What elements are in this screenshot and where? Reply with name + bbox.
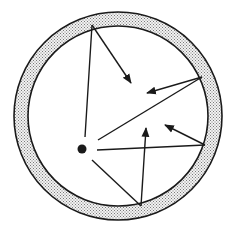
reflected-ray-arrow-icon <box>147 77 202 93</box>
point-source <box>78 145 87 154</box>
ray-3 <box>97 125 205 150</box>
incident-ray <box>92 160 141 206</box>
reflected-ray-arrow-icon <box>165 125 205 145</box>
ray-2 <box>98 77 202 140</box>
reflected-ray-arrow-icon <box>141 128 146 206</box>
incident-ray <box>97 145 205 150</box>
ray-4 <box>92 128 146 206</box>
ray-1 <box>85 25 131 137</box>
incident-ray <box>98 77 202 140</box>
reflected-ray-arrow-icon <box>92 25 131 83</box>
wall-inner-edge <box>28 26 208 206</box>
cavity-wall <box>14 12 222 220</box>
source-dot-icon <box>78 145 87 154</box>
incident-ray <box>85 25 92 137</box>
wall-shading <box>14 12 222 220</box>
cavity-reflection-diagram <box>0 0 228 229</box>
